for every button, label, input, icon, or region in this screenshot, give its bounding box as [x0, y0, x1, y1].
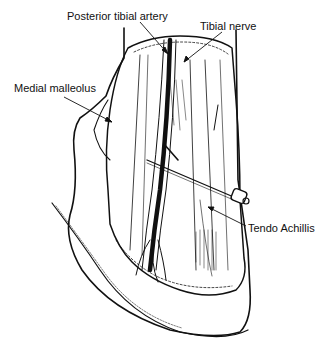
label-tibial-nerve: Tibial nerve — [200, 20, 256, 33]
figure: Posterior tibial artery Tibial nerve Med… — [0, 0, 333, 344]
label-tendo-achillis: Tendo Achillis — [248, 222, 315, 235]
label-posterior-tibial-artery: Posterior tibial artery — [67, 10, 168, 23]
label-medial-malleolus: Medial malleolus — [14, 82, 96, 95]
ankle-anatomy-illustration — [0, 0, 333, 344]
